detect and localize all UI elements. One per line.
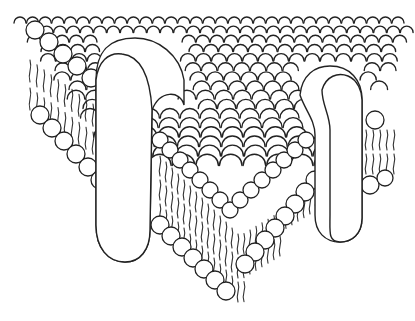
lipid-tail (50, 75, 52, 97)
lipid-head (320, 26, 333, 32)
lipid-head (275, 99, 293, 108)
lipid-tail (207, 228, 209, 248)
lipid-tail (165, 186, 167, 206)
lipid-head (240, 109, 259, 119)
lipid-head (377, 170, 393, 186)
lipid-head (200, 26, 213, 32)
lipid-head (307, 44, 321, 51)
lipid-head (84, 35, 97, 42)
lipid-head (140, 17, 152, 23)
lipid-tail (201, 222, 203, 242)
lipid-head (283, 63, 299, 71)
lipid-head (252, 35, 265, 42)
lipid-tail (393, 154, 395, 174)
lipid-head (367, 44, 381, 51)
lipid-tail (189, 186, 191, 206)
lipid-head (367, 54, 382, 61)
lipid-head (165, 17, 177, 23)
lipid-head (160, 26, 173, 32)
lipid-head (201, 63, 217, 71)
lipid-head (254, 26, 267, 32)
lipid-tail (78, 94, 80, 116)
lipid-head (337, 35, 350, 42)
lipid-head (252, 90, 270, 99)
lipid-head (241, 17, 253, 23)
lipid-head (224, 72, 240, 80)
lipid-tail (372, 154, 374, 174)
lipid-head (240, 26, 253, 32)
lipid-head (197, 90, 215, 99)
lipid-head (67, 26, 80, 32)
lipid-head (14, 17, 26, 23)
lipid-head (281, 35, 294, 42)
lipid-head (323, 35, 336, 42)
lipid-head (264, 81, 281, 89)
lipid-head (224, 35, 237, 42)
lipid-head (203, 17, 215, 23)
lipid-head (178, 17, 190, 23)
lipid-tail (225, 222, 227, 242)
lipid-tail (231, 252, 233, 272)
lipid-head (337, 44, 351, 51)
lipid-tail (243, 234, 245, 254)
lipid-tail (92, 104, 94, 126)
lipid-head (219, 44, 233, 51)
lipid-head (80, 26, 93, 32)
lipid-head (39, 17, 51, 23)
lipid-head (253, 17, 265, 23)
lipid-head (379, 35, 392, 42)
lipid-head (102, 17, 114, 23)
lipid-head (147, 26, 160, 32)
lipid-tail (201, 198, 203, 218)
lipid-head (246, 81, 263, 89)
lipid-head (134, 26, 147, 32)
lipid-head (214, 26, 227, 32)
lipid-head (280, 109, 299, 119)
lipid-tail (171, 168, 173, 188)
lipid-head (54, 72, 70, 80)
lipid-head (322, 44, 336, 51)
lipid-head (64, 17, 76, 23)
lipid-tail (213, 210, 215, 230)
lipid-tail (29, 60, 31, 82)
lipid-tail (243, 282, 245, 302)
lipid-tail (225, 246, 227, 266)
lipid-head (243, 154, 266, 165)
lipid-head (70, 35, 83, 42)
lipid-tail (189, 210, 191, 230)
lipid-head (174, 26, 187, 32)
lipid-head (120, 26, 133, 32)
lipid-head (71, 44, 85, 51)
lipid-head (180, 54, 195, 61)
lipid-head (218, 99, 236, 108)
lipid-head (258, 54, 273, 61)
lipid-head (229, 81, 246, 89)
lipid-tail (365, 130, 367, 150)
lipid-head (216, 17, 228, 23)
lipid-tail (219, 240, 221, 260)
lipid-head (274, 54, 289, 61)
lipid-head (217, 282, 235, 300)
lipid-head (360, 72, 376, 80)
lipid-tail (183, 180, 185, 200)
lipid-head (238, 35, 251, 42)
lipid-head (250, 63, 265, 71)
integral-proteins (96, 38, 362, 262)
lipid-tail (237, 234, 239, 254)
lipid-head (279, 17, 291, 23)
lipid-head (282, 81, 299, 89)
lipid-head (307, 26, 320, 32)
membrane-diagram (0, 0, 415, 321)
lipid-head (193, 81, 210, 89)
lipid-tail (177, 198, 179, 218)
lipid-head (294, 26, 307, 32)
lipid-head (198, 99, 216, 108)
lipid-head (258, 72, 274, 80)
lipid-head (218, 63, 234, 71)
lipid-head (262, 118, 282, 128)
lipid-head (127, 17, 139, 23)
lipid-head (393, 35, 406, 42)
lipid-head (215, 90, 233, 99)
lipid-tail (57, 80, 59, 102)
lipid-head (289, 54, 304, 61)
